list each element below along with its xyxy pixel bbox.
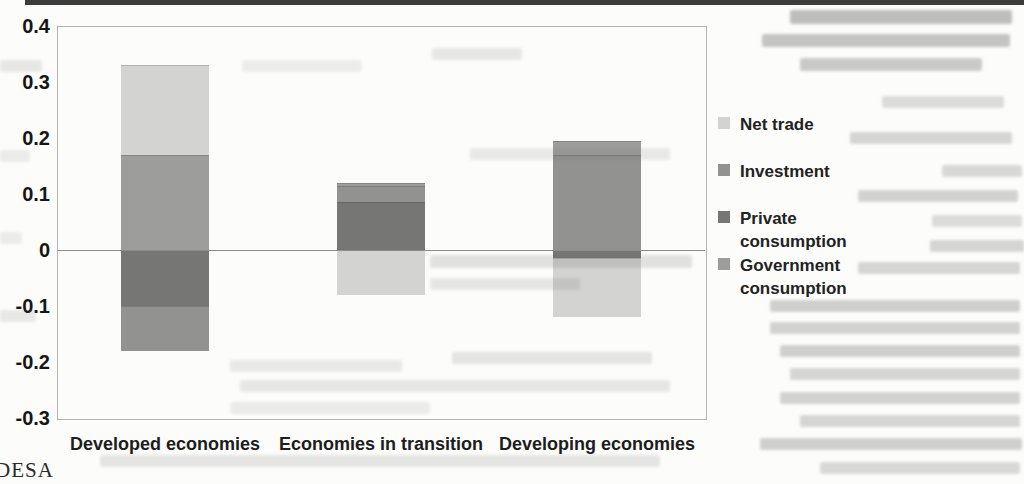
bleed-through-text: [790, 368, 1020, 380]
bleed-through-text: [230, 402, 430, 414]
legend-item-government-consumption: Government consumption: [718, 254, 900, 300]
net-trade-swatch-icon: [718, 117, 730, 129]
bleed-through-text: [770, 322, 1020, 334]
bleed-through-text: [932, 215, 1022, 227]
private-consumption-swatch-icon: [718, 211, 730, 223]
bar-segment-investment: [337, 186, 425, 203]
bleed-through-text: [0, 310, 36, 322]
bleed-through-text: [780, 345, 1020, 357]
x-axis-label-transition: Economies in transition: [273, 433, 489, 455]
page-top-rule: [25, 0, 1024, 5]
zero-axis-line: [58, 250, 705, 251]
bleed-through-text: [430, 278, 580, 290]
bar-segment-net-trade: [121, 65, 209, 155]
bleed-through-text: [470, 148, 670, 160]
y-axis-tick-label: 0.4: [0, 15, 50, 37]
source-note: DESA: [0, 458, 54, 483]
bleed-through-text: [942, 165, 1022, 177]
bleed-through-text: [850, 132, 1012, 144]
bleed-through-text: [430, 255, 692, 268]
bleed-through-text: [930, 240, 1024, 252]
bleed-through-text: [230, 360, 402, 372]
bar-segment-net-trade: [337, 250, 425, 295]
bleed-through-text: [790, 10, 1012, 24]
bar-segment-government-consumption: [121, 155, 209, 250]
bleed-through-text: [820, 462, 1020, 474]
bleed-through-text: [432, 48, 522, 60]
bleed-through-text: [800, 58, 982, 71]
bleed-through-text: [242, 60, 362, 72]
bar-segment-investment: [553, 155, 641, 250]
bleed-through-text: [452, 352, 652, 364]
government-consumption-swatch-icon: [718, 258, 730, 270]
legend-item-investment: Investment: [718, 160, 900, 183]
y-axis-tick-label: 0.1: [0, 183, 50, 205]
bleed-through-text: [240, 380, 670, 392]
bar-segment-government-consumption: [337, 183, 425, 186]
bleed-through-text: [800, 415, 1020, 427]
y-axis-tick-label: 0.2: [0, 127, 50, 149]
bar-segment-investment: [121, 306, 209, 351]
bar-segment-private-consumption: [121, 250, 209, 306]
bleed-through-text: [858, 190, 1018, 202]
legend-label: Private consumption: [740, 207, 900, 253]
scanned-book-page: 0.40.30.20.10-0.1-0.2-0.3 Developed econ…: [0, 0, 1024, 484]
bleed-through-text: [0, 232, 22, 244]
x-axis-label-developing: Developing economies: [489, 433, 705, 455]
bleed-through-text: [882, 96, 1004, 108]
bleed-through-text: [858, 262, 1020, 274]
bleed-through-text: [100, 455, 660, 467]
y-axis-tick-label: 0.3: [0, 71, 50, 93]
bar-segment-private-consumption: [337, 202, 425, 250]
x-axis-label-developed: Developed economies: [57, 433, 273, 455]
legend-label: Investment: [740, 160, 900, 183]
bleed-through-text: [0, 60, 42, 72]
y-axis-tick-label: -0.3: [0, 407, 50, 429]
bleed-through-text: [780, 392, 1020, 404]
bleed-through-text: [762, 34, 1010, 47]
legend-label: Government consumption: [740, 254, 900, 300]
y-axis-tick-label: -0.2: [0, 351, 50, 373]
investment-swatch-icon: [718, 164, 730, 176]
legend-item-private-consumption: Private consumption: [718, 207, 900, 253]
bleed-through-text: [760, 438, 1022, 450]
bleed-through-text: [770, 300, 1020, 312]
bleed-through-text: [0, 150, 30, 162]
